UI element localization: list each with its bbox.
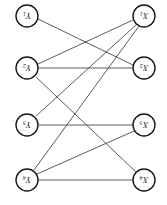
graph-edge-y3-x1 bbox=[36, 24, 137, 116]
graph-edge-y2-x1 bbox=[38, 20, 133, 64]
bipartite-graph-figure: Y1Y2Y3Y4X1X2X3X4 bbox=[0, 0, 167, 205]
graph-edge-y2-x4 bbox=[36, 77, 136, 172]
graph-canvas: Y1Y2Y3Y4X1X2X3X4 bbox=[0, 0, 167, 205]
graph-edge-y4-x3 bbox=[37, 131, 134, 174]
edges-group bbox=[34, 19, 139, 180]
graph-edge-y4-x1 bbox=[34, 26, 139, 170]
